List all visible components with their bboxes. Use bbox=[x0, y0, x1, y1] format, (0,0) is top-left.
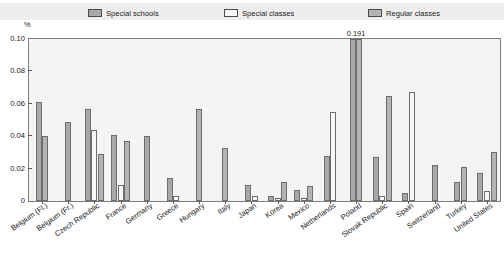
legend-item-regular-classes: Regular classes bbox=[368, 7, 440, 19]
y-axis-tick-labels: 00.020.040.060.080.10 bbox=[0, 38, 25, 200]
legend-swatch-icon bbox=[368, 9, 382, 17]
bar-group bbox=[291, 39, 317, 201]
legend-item-label: Regular classes bbox=[386, 8, 440, 19]
y-axis-tick-label: 0.04 bbox=[10, 131, 25, 140]
legend-swatch-icon bbox=[224, 9, 238, 17]
chart-legend: Special schools Special classes Regular … bbox=[0, 3, 504, 20]
y-axis-tick-label: 0.10 bbox=[10, 34, 25, 43]
y-axis-tick-label: 0.06 bbox=[10, 98, 25, 107]
legend-item-label: Special classes bbox=[242, 8, 294, 19]
legend-swatch-icon bbox=[88, 9, 102, 17]
y-axis-tick-mark bbox=[28, 135, 32, 136]
x-axis-tick-label-text: Korea bbox=[263, 201, 285, 220]
y-axis-unit-label: % bbox=[24, 20, 31, 29]
bar-group bbox=[265, 39, 291, 201]
bar[interactable] bbox=[36, 102, 42, 201]
bar[interactable] bbox=[42, 136, 48, 201]
bar[interactable] bbox=[245, 185, 251, 201]
bar-group bbox=[474, 39, 500, 201]
bar[interactable] bbox=[124, 141, 130, 201]
y-axis-tick-label: 0.08 bbox=[10, 66, 25, 75]
y-axis-tick-mark bbox=[28, 168, 32, 169]
bar[interactable] bbox=[350, 39, 356, 201]
x-axis-tick-label-text: Japan bbox=[237, 201, 259, 220]
bar[interactable] bbox=[491, 152, 497, 201]
x-axis-tick-label-text: Italy bbox=[216, 201, 232, 216]
y-axis-tick-mark bbox=[28, 103, 32, 104]
y-axis-tick-label: 0 bbox=[21, 196, 25, 205]
bar-group bbox=[212, 39, 238, 201]
bar-group bbox=[186, 39, 212, 201]
legend-item-special-schools: Special schools bbox=[88, 7, 159, 19]
bar-group bbox=[369, 39, 395, 201]
y-axis-tick-mark bbox=[28, 70, 32, 71]
bar[interactable] bbox=[432, 165, 438, 201]
bar[interactable] bbox=[196, 109, 202, 201]
bar-group bbox=[343, 39, 369, 201]
legend-item-special-classes: Special classes bbox=[224, 7, 294, 19]
chart-page: Special schools Special classes Regular … bbox=[0, 0, 504, 260]
legend-item-label: Special schools bbox=[106, 8, 159, 19]
y-axis-tick-label: 0.02 bbox=[10, 163, 25, 172]
bar[interactable] bbox=[330, 112, 336, 201]
bar[interactable] bbox=[356, 39, 362, 201]
bar-value-annotation: 0.191 bbox=[347, 29, 366, 38]
bar-group bbox=[238, 39, 264, 201]
bar-group bbox=[29, 39, 55, 201]
bar-group bbox=[317, 39, 343, 201]
bar-group bbox=[448, 39, 474, 201]
bar-group bbox=[160, 39, 186, 201]
x-axis-tick-labels: Belgium (Fl.)Belgium (Fr.)Czech Republic… bbox=[28, 201, 499, 260]
bar[interactable] bbox=[386, 96, 392, 201]
